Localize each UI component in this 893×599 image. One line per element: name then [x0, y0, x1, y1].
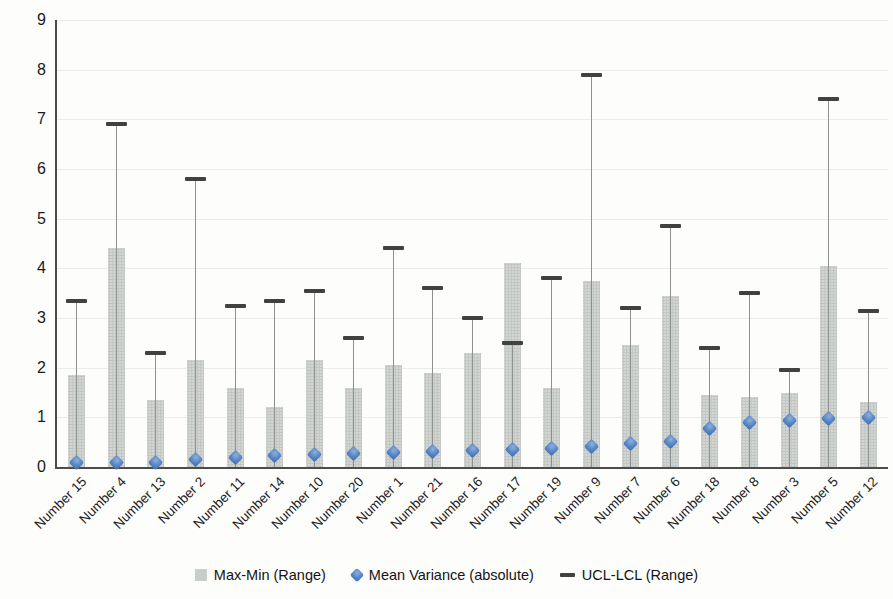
- y-tick-label-1: 1: [16, 407, 46, 427]
- ucl-cap-number-17: [502, 341, 523, 345]
- ucl-cap-number-9: [581, 73, 602, 77]
- legend-label-max-min: Max-Min (Range): [214, 567, 326, 583]
- ucl-cap-number-15: [66, 299, 87, 303]
- whisker-line-number-1: [393, 248, 394, 467]
- diamond-marker-icon: [350, 568, 364, 582]
- ucl-cap-number-1: [383, 246, 404, 250]
- ucl-cap-number-8: [739, 291, 760, 295]
- gridline-y-5: [57, 219, 888, 220]
- ucl-cap-number-5: [818, 97, 839, 101]
- whisker-line-number-21: [432, 288, 433, 467]
- gridline-y-6: [57, 169, 888, 170]
- whisker-line-number-12: [868, 311, 869, 467]
- whisker-line-number-19: [551, 278, 552, 467]
- whisker-line-number-4: [116, 124, 117, 467]
- ucl-cap-number-7: [620, 306, 641, 310]
- y-tick-label-5: 5: [16, 209, 46, 229]
- ucl-cap-number-14: [264, 299, 285, 303]
- y-tick-label-2: 2: [16, 358, 46, 378]
- x-axis-label-number-15: Number 15: [32, 474, 90, 532]
- gridline-y-9: [57, 20, 888, 21]
- y-tick-label-7: 7: [16, 109, 46, 129]
- whisker-line-number-6: [670, 226, 671, 467]
- y-tick-label-9: 9: [16, 10, 46, 30]
- whisker-line-number-2: [195, 179, 196, 467]
- ucl-cap-number-3: [779, 368, 800, 372]
- legend-label-mean-variance: Mean Variance (absolute): [369, 567, 534, 583]
- gridline-y-7: [57, 119, 888, 120]
- legend-item-mean-variance: Mean Variance (absolute): [352, 567, 534, 583]
- whisker-line-number-15: [76, 301, 77, 467]
- legend: Max-Min (Range) Mean Variance (absolute)…: [0, 567, 893, 583]
- ucl-cap-number-13: [145, 351, 166, 355]
- whisker-line-number-18: [709, 348, 710, 467]
- ucl-cap-number-16: [462, 316, 483, 320]
- ucl-cap-number-10: [304, 289, 325, 293]
- ucl-cap-number-19: [541, 276, 562, 280]
- whisker-line-number-8: [749, 293, 750, 467]
- y-tick-label-3: 3: [16, 308, 46, 328]
- legend-label-ucl-lcl: UCL-LCL (Range): [582, 567, 698, 583]
- ucl-cap-number-6: [660, 224, 681, 228]
- ucl-cap-number-11: [225, 304, 246, 308]
- legend-item-max-min-range: Max-Min (Range): [195, 567, 326, 583]
- dash-marker-icon: [560, 573, 575, 577]
- ucl-cap-number-20: [343, 336, 364, 340]
- ucl-cap-number-18: [699, 346, 720, 350]
- whisker-line-number-10: [314, 291, 315, 467]
- bar-swatch-icon: [195, 569, 207, 581]
- whisker-line-number-9: [591, 75, 592, 467]
- y-tick-label-6: 6: [16, 159, 46, 179]
- legend-item-ucl-lcl-range: UCL-LCL (Range): [560, 567, 698, 583]
- whisker-line-number-13: [155, 353, 156, 467]
- plot-area: [55, 20, 888, 469]
- gridline-y-4: [57, 268, 888, 269]
- y-tick-label-8: 8: [16, 60, 46, 80]
- whisker-line-number-11: [235, 306, 236, 467]
- ucl-cap-number-4: [106, 122, 127, 126]
- y-tick-label-4: 4: [16, 258, 46, 278]
- gridline-y-8: [57, 70, 888, 71]
- y-tick-label-0: 0: [16, 457, 46, 477]
- ucl-cap-number-12: [858, 309, 879, 313]
- ucl-cap-number-21: [422, 286, 443, 290]
- ucl-cap-number-2: [185, 177, 206, 181]
- chart: 0123456789 Number 15Number 4Number 13Num…: [0, 0, 893, 599]
- whisker-line-number-14: [274, 301, 275, 467]
